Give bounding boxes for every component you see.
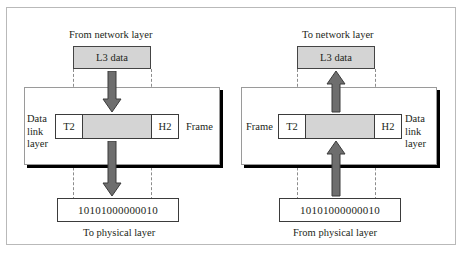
right-layer-label-line-2: link [405, 126, 426, 139]
right-frame-row: T2 H2 [278, 114, 402, 139]
left-layer-label-line-3: layer [27, 138, 48, 151]
left-layer-label-line-1: Data [27, 113, 48, 126]
framing-diagram: From network layer L3 data Data link lay… [0, 0, 465, 255]
right-frame-payload-cell [306, 115, 374, 138]
left-frame-trailer-cell: T2 [56, 115, 83, 138]
left-frame-row: T2 H2 [55, 114, 179, 139]
left-l3-data-box: L3 data [73, 46, 151, 69]
right-layer-label-line-1: Data [405, 113, 426, 126]
left-layer-label: Data link layer [27, 113, 48, 151]
arrow-datalink-to-network [326, 71, 346, 113]
left-bitstring-value: 10101000000010 [78, 204, 158, 216]
right-layer-label-line-3: layer [405, 138, 426, 151]
right-bottom-caption: From physical layer [293, 227, 377, 239]
right-top-caption: To network layer [302, 29, 374, 41]
arrow-network-to-datalink [102, 71, 122, 113]
right-bitstring-box: 10101000000010 [279, 198, 401, 222]
arrow-physical-to-datalink [326, 141, 346, 197]
left-frame-header-cell: H2 [151, 115, 178, 138]
right-frame-trailer-cell: T2 [279, 115, 306, 138]
left-bottom-caption: To physical layer [83, 227, 155, 239]
right-layer-label: Data link layer [405, 113, 426, 151]
left-panel-shadow-right [220, 90, 223, 168]
right-l3-data-label: L3 data [320, 52, 352, 63]
left-l3-data-label: L3 data [96, 52, 128, 63]
left-frame-payload-cell [83, 115, 151, 138]
left-top-caption: From network layer [69, 29, 152, 41]
left-bitstring-box: 10101000000010 [57, 198, 179, 222]
left-panel-shadow-bottom [27, 165, 223, 168]
right-l3-data-box: L3 data [297, 46, 375, 69]
arrow-datalink-to-physical [102, 141, 122, 197]
right-frame-label: Frame [246, 121, 273, 133]
right-panel-shadow-right [437, 90, 440, 168]
left-layer-label-line-2: link [27, 126, 48, 139]
right-bitstring-value: 10101000000010 [300, 204, 380, 216]
left-frame-label: Frame [186, 121, 213, 133]
right-frame-header-cell: H2 [374, 115, 401, 138]
